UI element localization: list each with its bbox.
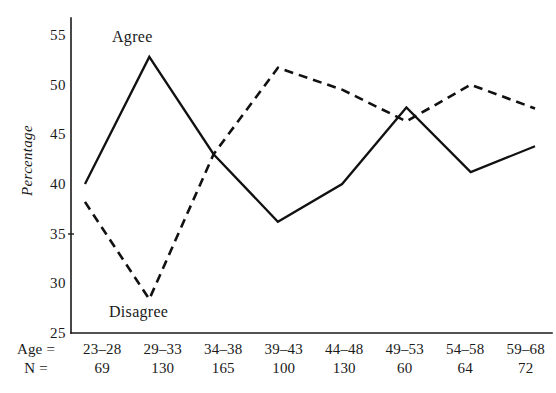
series-line-agree <box>85 57 535 222</box>
line-chart-plot <box>0 0 556 393</box>
age-group-cell: 54–58 <box>435 340 496 359</box>
n-value-cell: 165 <box>193 359 254 378</box>
n-value-cell: 100 <box>254 359 315 378</box>
age-group-cell: 34–38 <box>193 340 254 359</box>
age-group-cell: 23–28 <box>72 340 133 359</box>
category-summary-table: Age = 23–2829–3334–3839–4344–4849–5354–5… <box>0 340 556 378</box>
n-value-cell: 64 <box>435 359 496 378</box>
y-tick-label-45: 45 <box>38 134 66 135</box>
series-annotation-disagree: Disagree <box>109 303 168 321</box>
table-row-n: N = 69130165100130606472 <box>0 359 556 378</box>
n-value-cell: 72 <box>496 359 556 378</box>
n-value-cell: 130 <box>133 359 194 378</box>
y-tick-text: 55 <box>50 27 66 44</box>
y-tick-text: 40 <box>50 176 66 193</box>
y-tick-text: 30 <box>50 275 66 292</box>
axes <box>68 18 552 333</box>
n-value-cell: 130 <box>314 359 375 378</box>
n-value-cell: 60 <box>375 359 436 378</box>
age-group-cell: 44–48 <box>314 340 375 359</box>
y-tick-label-35: 35 <box>38 234 66 235</box>
age-group-cell: 59–68 <box>496 340 556 359</box>
series-group <box>85 57 535 299</box>
series-line-disagree <box>85 68 535 299</box>
y-tick-label-30: 30 <box>38 283 66 284</box>
age-group-cell: 49–53 <box>375 340 436 359</box>
age-group-cell: 39–43 <box>254 340 315 359</box>
chart-figure: Percentage 55504540353025 Agree Disagree… <box>0 0 556 393</box>
y-tick-label-50: 50 <box>38 85 66 86</box>
row-label-age: Age = <box>0 340 72 359</box>
y-tick-text: 45 <box>50 126 66 143</box>
y-tick-label-25: 25 <box>38 333 66 334</box>
y-tick-text: 50 <box>50 77 66 94</box>
age-group-cell: 29–33 <box>133 340 194 359</box>
y-tick-label-55: 55 <box>38 35 66 36</box>
series-annotation-agree: Agree <box>112 28 153 46</box>
row-label-n: N = <box>0 359 72 378</box>
n-value-cell: 69 <box>72 359 133 378</box>
y-tick-text: 35 <box>50 226 66 243</box>
table-row-age: Age = 23–2829–3334–3839–4344–4849–5354–5… <box>0 340 556 359</box>
y-tick-label-40: 40 <box>38 184 66 185</box>
y-axis-label: Percentage <box>19 116 36 206</box>
